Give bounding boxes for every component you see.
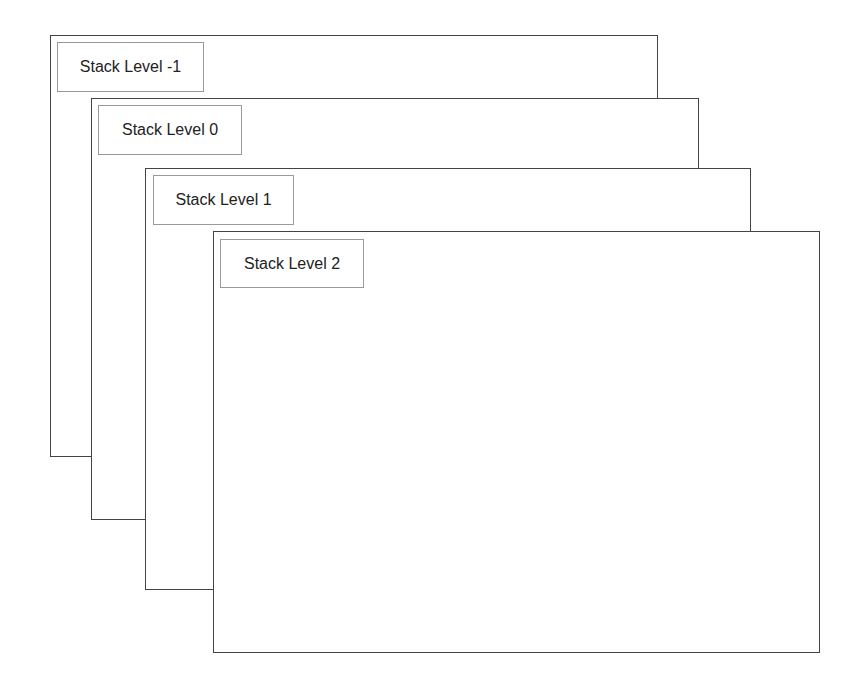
stack-layer-label: Stack Level 2 xyxy=(220,239,364,288)
stack-layer-2: Stack Level 2 xyxy=(213,231,820,653)
stack-layer-label: Stack Level 1 xyxy=(153,175,294,225)
stack-layer-label: Stack Level -1 xyxy=(57,42,204,92)
stack-layer-label: Stack Level 0 xyxy=(98,105,242,155)
